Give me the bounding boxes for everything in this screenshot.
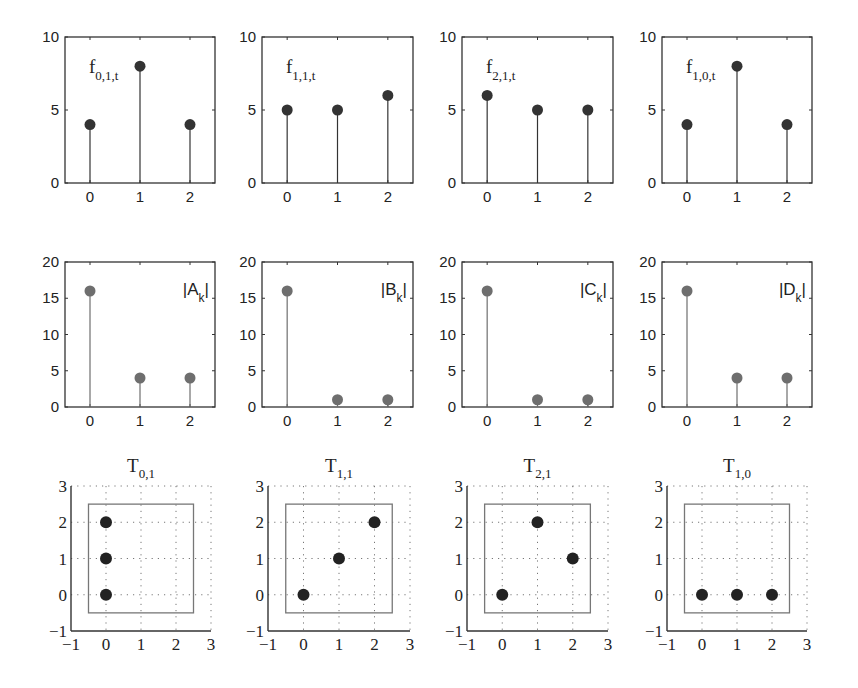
data-point xyxy=(100,516,112,528)
x-tick-label: 2 xyxy=(384,412,392,429)
data-point xyxy=(532,516,544,528)
chart-panel-row1-col3: 0510012f2,1,t xyxy=(439,28,613,205)
y-tick-label: 0 xyxy=(648,174,656,191)
chart-panel-row2-col1: 05101520012|Ak| xyxy=(42,253,215,429)
x-tick-label: −1 xyxy=(62,635,80,654)
x-tick-label: 0 xyxy=(683,188,691,205)
stem-marker xyxy=(185,119,196,130)
y-tick-label: 15 xyxy=(239,289,256,306)
y-tick-label: 0 xyxy=(51,174,59,191)
stem-marker xyxy=(482,90,493,101)
panel-label: f2,1,t xyxy=(486,56,516,83)
y-tick-label: 5 xyxy=(51,101,59,118)
chart-panel-row2-col2: 05101520012|Bk| xyxy=(239,253,413,429)
y-tick-label: 5 xyxy=(448,362,456,379)
label-end: | xyxy=(205,280,209,299)
y-tick-label: 0 xyxy=(256,586,265,605)
y-tick-label: 1 xyxy=(655,550,664,569)
panel-title: T1,1 xyxy=(325,455,353,481)
chart-panel-row3-col4: −10123−10123T1,0 xyxy=(645,455,811,654)
panel-title: T2,1 xyxy=(524,455,552,481)
x-tick-label: 3 xyxy=(604,635,613,654)
x-tick-label: 3 xyxy=(803,635,812,654)
title-main: T xyxy=(524,455,536,476)
stem-marker xyxy=(282,105,293,116)
data-point xyxy=(298,589,310,601)
x-tick-label: 0 xyxy=(698,635,707,654)
panel-label: |Bk| xyxy=(381,280,407,305)
figure: 0510012f0,1,t0510012f1,1,t0510012f2,1,t0… xyxy=(0,0,858,688)
x-tick-label: 2 xyxy=(584,188,592,205)
y-tick-label: 0 xyxy=(448,398,456,415)
x-tick-label: 0 xyxy=(683,412,691,429)
label-sub: 1,1,t xyxy=(292,68,316,83)
y-tick-label: 5 xyxy=(248,101,256,118)
y-tick-label: 20 xyxy=(42,253,59,270)
x-tick-label: 1 xyxy=(136,412,144,429)
label-main: |D xyxy=(779,280,796,299)
panel-label: |Ak| xyxy=(183,280,209,305)
y-tick-label: 10 xyxy=(439,326,456,343)
chart-panel-row2-col3: 05101520012|Ck| xyxy=(439,253,613,429)
stem-marker xyxy=(682,286,693,297)
stem-marker xyxy=(782,373,793,384)
x-tick-label: 1 xyxy=(533,412,541,429)
label-sub: 1,0,t xyxy=(692,68,716,83)
stem-marker xyxy=(85,286,96,297)
x-tick-label: 1 xyxy=(333,412,341,429)
y-tick-label: 5 xyxy=(648,101,656,118)
x-tick-label: 2 xyxy=(384,188,392,205)
stem-marker xyxy=(185,373,196,384)
y-tick-label: 0 xyxy=(648,398,656,415)
x-tick-label: 2 xyxy=(370,635,379,654)
stem-marker xyxy=(332,105,343,116)
data-point xyxy=(567,553,579,565)
label-main: |C xyxy=(580,280,597,299)
y-tick-label: 20 xyxy=(639,253,656,270)
x-tick-label: 0 xyxy=(86,188,94,205)
y-tick-label: 10 xyxy=(239,326,256,343)
stem-marker xyxy=(582,105,593,116)
x-tick-label: −1 xyxy=(658,635,676,654)
y-tick-label: 0 xyxy=(51,398,59,415)
x-tick-label: 3 xyxy=(207,635,216,654)
panel-label: |Ck| xyxy=(580,280,607,305)
stem-marker xyxy=(332,394,343,405)
x-tick-label: 0 xyxy=(102,635,111,654)
panel-label: f1,0,t xyxy=(686,56,716,83)
title-sub: 2,1 xyxy=(535,466,551,481)
stem-marker xyxy=(532,394,543,405)
stem-marker xyxy=(732,373,743,384)
chart-panel-row3-col2: −10123−10123T1,1 xyxy=(246,455,414,654)
y-tick-label: 0 xyxy=(655,586,664,605)
y-tick-label: 10 xyxy=(639,28,656,45)
x-tick-label: 1 xyxy=(533,188,541,205)
x-tick-label: 1 xyxy=(136,188,144,205)
x-tick-label: 3 xyxy=(406,635,415,654)
stem-marker xyxy=(135,373,146,384)
x-tick-label: 2 xyxy=(172,635,181,654)
y-tick-label: 1 xyxy=(256,550,265,569)
y-tick-label: 0 xyxy=(59,586,68,605)
chart-panel-row3-col1: −10123−10123T0,1 xyxy=(49,455,215,654)
y-tick-label: 2 xyxy=(256,513,265,532)
data-point xyxy=(731,589,743,601)
y-tick-label: 10 xyxy=(239,28,256,45)
y-tick-label: 5 xyxy=(648,362,656,379)
y-tick-label: 3 xyxy=(655,477,664,496)
stem-marker xyxy=(732,61,743,72)
stem-marker xyxy=(382,90,393,101)
data-point xyxy=(100,553,112,565)
data-point xyxy=(100,589,112,601)
data-point xyxy=(369,516,381,528)
x-tick-label: 0 xyxy=(283,412,291,429)
stem-marker xyxy=(582,394,593,405)
stem-marker xyxy=(482,286,493,297)
chart-panel-row1-col1: 0510012f0,1,t xyxy=(42,28,215,205)
panel-label: |Dk| xyxy=(779,280,806,305)
x-tick-label: 2 xyxy=(569,635,578,654)
x-tick-label: 2 xyxy=(186,188,194,205)
y-tick-label: 20 xyxy=(439,253,456,270)
x-tick-label: 1 xyxy=(335,635,344,654)
panel-title: T1,0 xyxy=(723,455,751,481)
